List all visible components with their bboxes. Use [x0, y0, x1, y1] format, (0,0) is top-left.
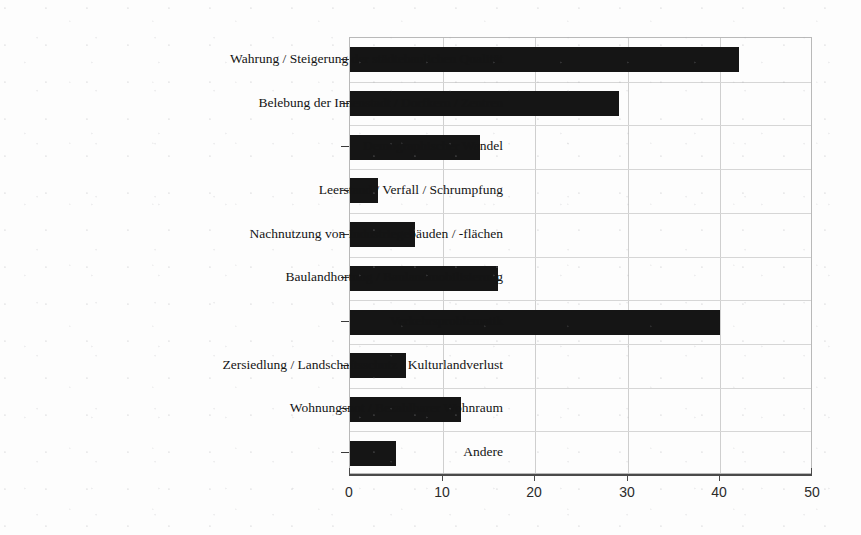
chart-page: Wahrung / Steigerung der städtebaulichen…	[0, 0, 861, 535]
y-axis-tick	[341, 452, 349, 453]
x-axis-tick	[442, 474, 443, 481]
gridline-vertical	[720, 38, 721, 473]
y-axis-tick-label: Leerstand / Verfall / Schrumpfung	[319, 183, 503, 197]
y-axis-tick-label: Wohnungsnot / Bezahlbarer Wohnraum	[290, 401, 503, 415]
bar	[350, 441, 396, 466]
x-axis-tick	[534, 474, 535, 481]
x-axis-tick-label: 50	[804, 484, 820, 500]
y-axis-tick-label: Verkehrsproblematik	[390, 314, 503, 328]
gridline-horizontal	[350, 431, 811, 432]
y-axis-tick-label: Belebung der Innenstadt / Dorfkern / Zen…	[259, 96, 503, 110]
gridline-horizontal	[350, 388, 811, 389]
x-axis-tick-label: 0	[345, 484, 353, 500]
y-axis-tick	[341, 321, 349, 322]
x-axis-tick	[627, 474, 628, 481]
x-axis-tick-label: 30	[619, 484, 635, 500]
y-axis-tick-label: Baulandhortung / Baulandmobilisierung	[286, 270, 503, 284]
x-axis-right-cap	[811, 468, 812, 475]
gridline-horizontal	[350, 169, 811, 170]
gridline-vertical	[628, 38, 629, 473]
x-axis-left-cap	[349, 468, 350, 475]
x-axis-tick-label: 20	[526, 484, 542, 500]
y-axis-tick-label: Zersiedlung / Landschaftsschutz / Kultur…	[223, 358, 503, 372]
gridline-horizontal	[350, 82, 811, 83]
gridline-horizontal	[350, 213, 811, 214]
x-axis-tick	[719, 474, 720, 481]
gridline-horizontal	[350, 344, 811, 345]
x-axis-tick-label: 10	[434, 484, 450, 500]
y-axis-tick-label: Demographischer Wandel	[363, 139, 503, 153]
gridline-horizontal	[350, 257, 811, 258]
y-axis-tick-label: Andere	[463, 445, 503, 459]
x-axis-line	[349, 474, 812, 476]
x-axis-tick-label: 40	[711, 484, 727, 500]
y-axis-tick-label: Wahrung / Steigerung der städtebaulichen…	[230, 52, 503, 66]
gridline-horizontal	[350, 125, 811, 126]
gridline-horizontal	[350, 300, 811, 301]
y-axis-tick-label: Nachnutzung von Industriegebäuden / -flä…	[250, 227, 503, 241]
y-axis-tick	[341, 146, 349, 147]
